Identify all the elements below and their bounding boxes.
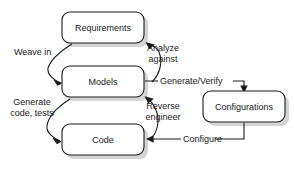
edge-label-reverse-engineer-line1: Reverse bbox=[146, 101, 180, 111]
node-configurations[interactable]: Configurations bbox=[203, 91, 285, 122]
node-models[interactable]: Models bbox=[62, 66, 144, 97]
generate-code-arrowhead2 bbox=[53, 138, 62, 144]
configurations-label: Configurations bbox=[215, 102, 274, 112]
models-label: Models bbox=[88, 77, 118, 87]
edge-label-weave-in: Weave in bbox=[14, 47, 51, 57]
edge-label-analyze-against-line1: Analyze bbox=[147, 43, 179, 53]
edge-label-generate-code-line1: Generate bbox=[13, 97, 51, 107]
edge-label-reverse-engineer-line2: engineer bbox=[145, 112, 180, 122]
node-code[interactable]: Code bbox=[62, 124, 144, 155]
diagram-svg: Requirements Models Code Configurations … bbox=[0, 0, 294, 172]
edge-label-generate-code-line2: code, tests bbox=[10, 108, 54, 118]
edge-label-generate-verify: Generate/Verify bbox=[160, 76, 223, 86]
diagram-canvas: Requirements Models Code Configurations … bbox=[0, 0, 294, 172]
edge-label-analyze-against-line2: against bbox=[148, 54, 178, 64]
node-requirements[interactable]: Requirements bbox=[62, 12, 144, 43]
code-label: Code bbox=[92, 135, 114, 145]
requirements-label: Requirements bbox=[75, 23, 132, 33]
edge-label-configure: Configure bbox=[183, 134, 222, 144]
